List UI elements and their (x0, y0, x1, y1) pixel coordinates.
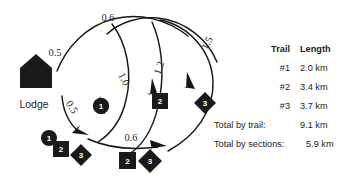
total-by-sections-value: 5.9 km (306, 139, 356, 149)
edge-label-top-06: 0.6 (101, 12, 114, 23)
node-bm-diamond-3: 3 (138, 149, 162, 173)
node-center-circle-1: 1 (93, 98, 109, 114)
edge-label-left-05: 0.5 (48, 47, 61, 58)
table-header-row: Trail Length (214, 44, 356, 63)
node-mid-square-2: 2 (152, 93, 168, 109)
edge-label-mid-10: 1.0 (116, 71, 132, 88)
total-by-trail-label: Total by trail: (214, 120, 300, 130)
node-bl-square-2-label: 2 (59, 145, 64, 154)
total-by-trail-value: 9.1 km (300, 120, 356, 130)
node-bl-diamond-3-label: 3 (79, 151, 84, 160)
cell-length: 3.7 km (300, 101, 356, 111)
node-bm-diamond-3-label: 3 (148, 157, 153, 166)
table-row: #1 2.0 km (214, 63, 356, 82)
cell-trail: #3 (214, 101, 300, 111)
cell-trail: #2 (214, 82, 300, 92)
trail-map-figure: Lodge 0.6 0.5 0.5 1.0 1.2 1.5 0.6 1 2 3 … (0, 0, 356, 182)
edge-path-top-06 (107, 18, 217, 62)
node-bl-square-2: 2 (53, 141, 69, 157)
node-bm-square-2: 2 (119, 152, 136, 169)
cell-length: 2.0 km (300, 63, 356, 73)
total-by-trail-row: Total by trail: 9.1 km (214, 120, 356, 139)
table-row: #3 3.7 km (214, 101, 356, 120)
house-icon (20, 54, 52, 88)
cell-trail: #1 (214, 63, 300, 73)
node-right-diamond-3-label: 3 (203, 99, 208, 108)
column-header-length: Length (300, 44, 356, 54)
arrowhead-right-15 (183, 72, 195, 89)
node-bl-diamond-3: 3 (70, 144, 92, 166)
trail-length-table: Trail Length #1 2.0 km #2 3.4 km #3 3.7 … (214, 44, 356, 174)
node-bl-circle-1-label: 1 (47, 134, 52, 143)
table-row: #2 3.4 km (214, 82, 356, 101)
edge-label-mid-12: 1.2 (152, 60, 167, 76)
total-by-sections-row: Total by sections: 5.9 km (214, 139, 356, 158)
node-center-circle-1-label: 1 (99, 102, 104, 111)
total-by-sections-label: Total by sections: (214, 139, 306, 149)
edge-label-bottom-06: 0.6 (124, 132, 137, 143)
column-header-trail: Trail (214, 44, 300, 54)
edge-path-bottom-06 (88, 139, 158, 148)
lodge-label: Lodge (19, 98, 48, 110)
edge-label-right-15: 1.5 (199, 35, 215, 52)
cell-length: 3.4 km (300, 82, 356, 92)
node-bm-square-2-label: 2 (125, 157, 130, 166)
node-mid-square-2-label: 2 (158, 97, 163, 106)
arrowhead-bottom-06 (150, 140, 167, 151)
